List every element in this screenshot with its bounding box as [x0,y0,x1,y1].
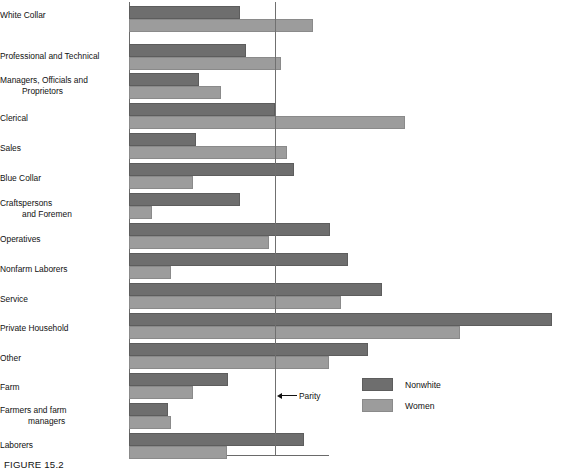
bar-nonwhite-professional-and-technical [129,44,246,57]
category-label-managers-officials-and-proprietors: Managers, Officials andProprietors [0,75,117,96]
bar-nonwhite-sales [129,133,196,146]
category-label-private-household: Private Household [0,323,117,334]
category-label-service: Service [0,294,117,305]
legend-label-nonwhite: Nonwhite [405,380,441,390]
category-label-blue-collar: Blue Collar [0,173,117,184]
plot-area [129,2,569,456]
bar-women-sales [129,146,287,159]
category-label-sales: Sales [0,143,117,154]
bar-women-other [129,356,329,369]
bar-nonwhite-farm [129,373,228,386]
bar-women-private-household [129,326,460,339]
category-axis-labels: White Collar Professional and Technical … [0,0,127,456]
bar-nonwhite-clerical [129,103,275,116]
category-label-professional-and-technical: Professional and Technical [0,51,117,62]
parity-annotation-label: Parity [299,391,320,401]
category-label-clerical: Clerical [0,113,117,124]
bar-nonwhite-other [129,343,368,356]
bar-women-craftspersons-and-foremen [129,206,152,219]
bar-nonwhite-nonfarm-laborers [129,253,348,266]
category-label-nonfarm-laborers: Nonfarm Laborers [0,264,117,275]
bar-nonwhite-blue-collar [129,163,294,176]
bar-women-farm [129,386,193,399]
category-label-laborers: Laborers [0,440,117,451]
bar-nonwhite-managers-officials-and-proprietors [129,73,199,86]
chart-legend: Nonwhite Women [362,378,502,420]
bar-women-blue-collar [129,176,193,189]
bar-nonwhite-service [129,283,382,296]
category-label-other: Other [0,353,117,364]
bar-women-operatives [129,236,269,249]
bar-women-farmers-and-farm-managers [129,416,171,429]
legend-label-women: Women [405,401,434,411]
bar-women-laborers [129,446,227,459]
legend-swatch-women [362,399,393,412]
left-arrow-icon [277,392,297,399]
bar-nonwhite-private-household [129,313,552,326]
bar-women-professional-and-technical [129,57,281,70]
figure-container: White Collar Professional and Technical … [0,0,569,474]
legend-item-women: Women [362,399,502,412]
category-label-craftspersons-and-foremen: Craftspersonsand Foremen [0,198,117,219]
bar-women-nonfarm-laborers [129,266,171,279]
bar-nonwhite-laborers [129,433,304,446]
category-label-farm: Farm [0,382,117,393]
parity-reference-line [275,2,276,456]
figure-caption: FIGURE 15.2 [4,459,64,470]
bar-women-service [129,296,341,309]
bar-nonwhite-craftspersons-and-foremen [129,193,240,206]
bar-women-white-collar [129,19,313,32]
category-label-farmers-and-farm-managers: Farmers and farmmanagers [0,405,117,426]
category-label-white-collar: White Collar [0,10,117,21]
bar-women-managers-officials-and-proprietors [129,86,221,99]
bar-nonwhite-white-collar [129,6,240,19]
category-label-operatives: Operatives [0,234,117,245]
bar-nonwhite-operatives [129,223,330,236]
legend-swatch-nonwhite [362,378,393,391]
legend-item-nonwhite: Nonwhite [362,378,502,391]
bar-nonwhite-farmers-and-farm-managers [129,403,168,416]
bar-women-clerical [129,116,405,129]
parity-annotation: Parity [277,390,320,401]
